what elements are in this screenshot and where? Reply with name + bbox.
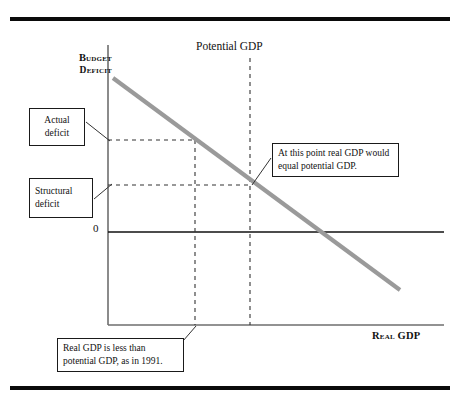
callout-recession-line1: Real GDP is less than <box>63 342 163 355</box>
callout-recession-line2: potential GDP, as in 1991. <box>63 355 163 368</box>
recession-leader <box>183 326 196 341</box>
x-axis-title: Real GDP <box>372 330 420 342</box>
structural-deficit-leader <box>94 184 112 199</box>
zero-tick-label: 0 <box>93 222 99 235</box>
callout-recession: Real GDP is less than potential GDP, as … <box>57 338 184 372</box>
callout-recession-text: Real GDP is less than potential GDP, as … <box>63 342 163 367</box>
budget-deficit-line <box>113 78 400 290</box>
actual-deficit-leader <box>86 122 110 141</box>
figure-container: Budget Deficit Real GDP Potential GDP 0 … <box>0 0 459 402</box>
callout-intersection-line1: At this point real GDP would <box>278 147 389 160</box>
callout-structural-deficit-line2: deficit <box>35 198 87 211</box>
callout-actual-deficit-line2: deficit <box>45 127 69 140</box>
callout-structural-deficit: Structural deficit <box>29 178 93 218</box>
callout-intersection-line2: equal potential GDP. <box>278 160 389 173</box>
callout-intersection: At this point real GDP would equal poten… <box>272 143 399 177</box>
callout-actual-deficit-line1: Actual <box>44 114 69 127</box>
y-axis-title-line2: Deficit <box>50 65 112 76</box>
callout-structural-deficit-line1: Structural <box>35 185 87 198</box>
callout-intersection-text: At this point real GDP would equal poten… <box>278 147 389 172</box>
callout-actual-deficit: Actual deficit <box>29 108 85 146</box>
y-axis-title: Budget Deficit <box>50 40 112 88</box>
intersection-leader <box>252 158 271 185</box>
y-axis-title-line1: Budget <box>79 52 112 63</box>
potential-gdp-label: Potential GDP <box>196 40 263 54</box>
